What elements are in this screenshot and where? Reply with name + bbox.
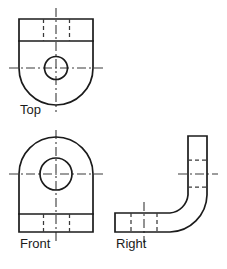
technical-drawing-sheet: Top Front Right [0, 0, 227, 269]
right-view-outline [115, 136, 207, 232]
right-view-label: Right [116, 236, 147, 251]
front-view: Front [9, 130, 103, 251]
front-view-label: Front [20, 236, 51, 251]
right-view: Right [115, 136, 218, 251]
top-view: Top [9, 8, 103, 117]
orthographic-projection-canvas: Top Front Right [0, 0, 227, 269]
top-view-label: Top [20, 102, 41, 117]
